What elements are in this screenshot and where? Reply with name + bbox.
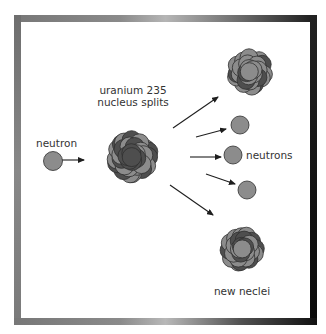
uranium-label-line1: uranium 235 [99, 84, 166, 96]
arrow [173, 97, 218, 128]
neutron-ball [240, 63, 258, 81]
arrow [206, 174, 235, 184]
new-nuclei-label: new neclei [214, 285, 270, 297]
arrow [170, 185, 213, 215]
daughter-nucleus-bottom [220, 227, 264, 271]
emitted-neutron [231, 116, 249, 134]
daughter-nucleus-top [228, 49, 273, 95]
incoming-neutron [44, 152, 63, 171]
arrow [196, 129, 226, 137]
uranium-label-line2: nucleus splits [97, 96, 168, 108]
neutron-ball [233, 240, 251, 258]
neutron-label: neutron [36, 137, 77, 149]
uranium-235-nucleus [107, 131, 158, 183]
neutrons-label: neutrons [246, 149, 293, 161]
proton-ball [122, 148, 141, 167]
fission-diagram: neutron uranium 235 nucleus splits neutr… [0, 0, 326, 334]
emitted-neutron [224, 146, 242, 164]
diagram-canvas [0, 0, 326, 334]
emitted-neutron [238, 181, 256, 199]
